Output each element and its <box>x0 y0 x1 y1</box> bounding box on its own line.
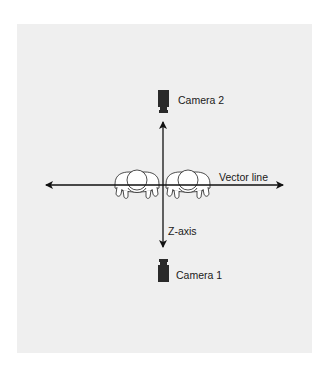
z-axis-label: Z-axis <box>168 226 197 237</box>
camera-2-icon <box>158 90 169 113</box>
person-right-icon <box>166 170 210 198</box>
vector-line-label: Vector line <box>219 172 268 183</box>
camera-1-label: Camera 1 <box>176 270 222 281</box>
person-left-icon <box>115 170 159 198</box>
camera-1-icon <box>158 259 169 282</box>
camera-2-label: Camera 2 <box>178 95 224 106</box>
diagram-canvas <box>0 0 322 367</box>
